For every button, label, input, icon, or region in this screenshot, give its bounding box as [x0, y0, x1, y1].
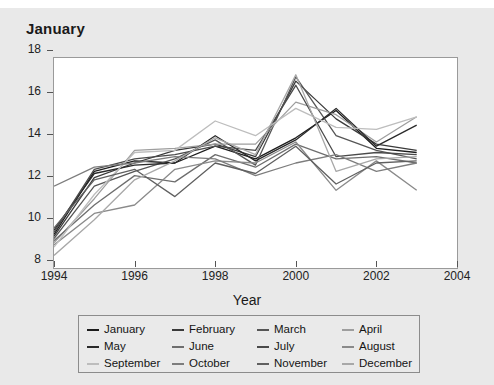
legend-grid: JanuaryFebruaryMarchAprilMayJuneJulyAugu… [79, 321, 419, 372]
legend-item-label: August [359, 341, 395, 353]
x-tick-label: 2002 [356, 269, 396, 283]
y-tick-label: 14 [19, 126, 41, 140]
legend-item[interactable]: March [249, 324, 334, 336]
legend-line-icon [172, 346, 184, 348]
legend-item[interactable]: April [334, 324, 419, 336]
x-tick-label: 1996 [115, 269, 155, 283]
legend-item-label: December [359, 358, 412, 370]
legend-item-label: July [274, 341, 294, 353]
x-tick-label: 1998 [195, 269, 235, 283]
legend-line-icon [172, 329, 184, 331]
legend-line-icon [87, 346, 99, 348]
legend-line-icon [87, 329, 99, 331]
y-tick-mark [47, 134, 53, 135]
legend-line-icon [87, 363, 99, 365]
y-tick-mark [47, 260, 53, 261]
series-line [54, 108, 417, 230]
chart-screenshot: January Year JanuaryFebruaryMarchAprilMa… [0, 0, 494, 385]
y-tick-label: 12 [19, 168, 41, 182]
series-line [54, 144, 417, 241]
y-tick-label: 18 [19, 42, 41, 56]
plot-area [53, 57, 458, 269]
legend-item[interactable]: September [79, 358, 164, 370]
x-tick-label: 2000 [276, 269, 316, 283]
legend-line-icon [342, 329, 354, 331]
x-tick-mark [296, 261, 297, 267]
legend-item[interactable]: May [79, 341, 164, 353]
x-tick-mark [376, 261, 377, 267]
legend-item-label: November [274, 358, 327, 370]
x-axis-title: Year [0, 292, 494, 308]
series-line [54, 108, 417, 247]
x-tick-mark [135, 261, 136, 267]
x-tick-label: 2004 [437, 269, 477, 283]
x-tick-label: 1994 [34, 269, 74, 283]
y-tick-label: 10 [19, 210, 41, 224]
legend-item-label: January [104, 324, 145, 336]
legend-line-icon [342, 346, 354, 348]
legend-line-icon [257, 346, 269, 348]
legend-item-label: February [189, 324, 235, 336]
series-line [54, 146, 417, 228]
legend-item[interactable]: December [334, 358, 419, 370]
legend-item[interactable]: October [164, 358, 249, 370]
legend-item-label: April [359, 324, 382, 336]
chart-title: January [26, 20, 85, 37]
x-tick-mark [54, 261, 55, 267]
legend-item[interactable]: November [249, 358, 334, 370]
legend-item-label: October [189, 358, 230, 370]
figure-canvas: January Year JanuaryFebruaryMarchAprilMa… [0, 8, 494, 385]
legend-line-icon [257, 329, 269, 331]
legend-item-label: June [189, 341, 214, 353]
legend-line-icon [172, 363, 184, 365]
legend-line-icon [342, 363, 354, 365]
legend-item-label: May [104, 341, 126, 353]
legend: JanuaryFebruaryMarchAprilMayJuneJulyAugu… [78, 315, 420, 373]
y-tick-label: 16 [19, 84, 41, 98]
legend-item-label: September [104, 358, 160, 370]
legend-item[interactable]: June [164, 341, 249, 353]
legend-item[interactable]: July [249, 341, 334, 353]
y-tick-mark [47, 92, 53, 93]
legend-item[interactable]: January [79, 324, 164, 336]
y-tick-mark [47, 218, 53, 219]
x-tick-mark [215, 261, 216, 267]
y-tick-mark [47, 50, 53, 51]
legend-item[interactable]: August [334, 341, 419, 353]
x-tick-mark [457, 261, 458, 267]
series-lines [54, 58, 457, 268]
series-line [54, 81, 417, 236]
legend-item-label: March [274, 324, 306, 336]
legend-line-icon [257, 363, 269, 365]
y-tick-label: 8 [19, 252, 41, 266]
y-tick-mark [47, 176, 53, 177]
legend-item[interactable]: February [164, 324, 249, 336]
